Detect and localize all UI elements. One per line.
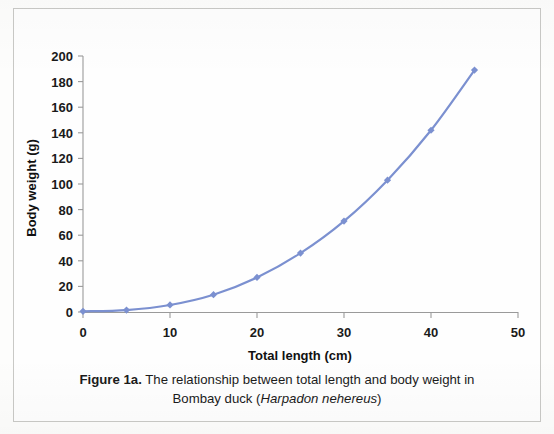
y-axis-title: Body weight (g) <box>24 139 39 237</box>
series-line <box>83 70 475 311</box>
x-tick-label-40: 40 <box>424 325 438 340</box>
x-tick-label-0: 0 <box>79 325 86 340</box>
x-tick-label-20: 20 <box>250 325 264 340</box>
y-tick-label-200: 200 <box>51 49 73 64</box>
x-axis-title: Total length (cm) <box>248 348 352 363</box>
x-tick-label-10: 10 <box>163 325 177 340</box>
y-tick-label-40: 40 <box>59 254 73 269</box>
y-tick-label-80: 80 <box>59 203 73 218</box>
caption-label: Figure 1a. <box>80 372 142 387</box>
y-tick-label-180: 180 <box>51 75 73 90</box>
data-point-marker <box>210 291 217 298</box>
y-tick-label-160: 160 <box>51 100 73 115</box>
line-chart: 200 180 160 140 120 100 80 60 40 20 0 0 … <box>0 0 554 434</box>
series-markers <box>79 66 478 314</box>
caption-species-name: Harpadon nehereus <box>260 391 377 406</box>
x-tick-label-30: 30 <box>337 325 351 340</box>
caption-line1: The relationship between total length an… <box>145 372 474 387</box>
y-tick-label-0: 0 <box>66 305 73 320</box>
y-tick-label-140: 140 <box>51 126 73 141</box>
chart-area: 200 180 160 140 120 100 80 60 40 20 0 0 … <box>0 0 554 434</box>
figure-root: 200 180 160 140 120 100 80 60 40 20 0 0 … <box>0 0 554 434</box>
caption-line2-prefix: Bombay duck ( <box>173 391 261 406</box>
y-tick-label-60: 60 <box>59 228 73 243</box>
y-tick-label-120: 120 <box>51 151 73 166</box>
data-point-marker <box>253 274 260 281</box>
y-axis-ticks <box>78 56 83 312</box>
y-tick-label-100: 100 <box>51 177 73 192</box>
caption-line2-suffix: ) <box>377 391 381 406</box>
y-tick-label-20: 20 <box>59 279 73 294</box>
x-tick-label-50: 50 <box>511 325 525 340</box>
figure-caption: Figure 1a. The relationship between tota… <box>40 370 514 408</box>
data-point-marker <box>166 301 173 308</box>
data-point-marker <box>79 308 86 315</box>
data-series-body-weight <box>79 66 478 314</box>
